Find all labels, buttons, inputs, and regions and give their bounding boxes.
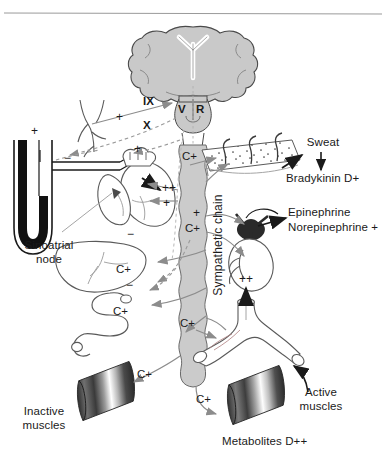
sign-liver-c-plus: C+ <box>116 263 131 275</box>
sign-manometer-plus: + <box>31 124 38 138</box>
sign-heart-plus-double: ++ <box>162 181 176 195</box>
nerve-label-ix: IX <box>143 95 154 108</box>
sign-liver-minus: − <box>127 227 134 241</box>
sinoatrial-node-label-line2: node <box>6 253 92 266</box>
sign-intestine-minus: − <box>126 278 133 292</box>
sympathetic-chain-label: Sympathetic chain <box>211 170 225 320</box>
sign-heart-minus: − <box>64 151 71 165</box>
inactive-muscle-icon <box>74 361 137 421</box>
heart-icon <box>62 148 175 232</box>
brain-icon <box>128 26 257 102</box>
sign-inactive-muscle-c-plus: C+ <box>137 368 152 380</box>
medulla-icon <box>175 86 212 150</box>
intestine-icon <box>72 293 132 356</box>
sympathetic-chain-icon <box>179 145 207 387</box>
sweat-label: Sweat <box>300 136 346 149</box>
sign-heart-plus-lower: + <box>163 196 170 210</box>
inactive-muscles-label-line2: muscles <box>8 419 80 432</box>
norepinephrine-label: Norepinephrine + <box>288 221 378 234</box>
sign-skin-c-plus: C+ <box>182 150 197 162</box>
nerve-label-r: R <box>196 103 204 116</box>
sign-heart-plus-upper: + <box>134 142 141 156</box>
sign-adrenal-c-plus: C+ <box>185 222 200 234</box>
sign-vessel-plus-double: ++ <box>239 272 253 286</box>
metabolites-label: Metabolites D++ <box>222 435 307 448</box>
epinephrine-label: Epinephrine <box>288 206 350 219</box>
nerve-label-v: V <box>178 103 186 116</box>
adrenal-kidney-icon <box>229 209 286 291</box>
sign-adrenal-plus: + <box>193 206 200 220</box>
carotid-baroreceptor-icon <box>78 100 106 157</box>
nerve-label-x: X <box>143 119 151 132</box>
bradykinin-label: Bradykinin D+ <box>286 172 359 185</box>
sign-carotid-plus: + <box>116 110 123 124</box>
active-muscles-label-line1: Active <box>288 386 354 399</box>
skin-sweat-gland-icon <box>202 133 302 173</box>
active-muscles-label-line2: muscles <box>288 400 354 413</box>
active-muscle-icon <box>224 365 287 425</box>
sinoatrial-node-label-line1: Sinoatrial <box>6 239 92 252</box>
sign-active-muscle-c-plus: C+ <box>196 393 211 405</box>
top-rule <box>4 13 382 14</box>
sign-intestine-c-plus: C+ <box>113 305 128 317</box>
inactive-muscles-label-line1: Inactive <box>8 405 80 418</box>
sign-vessel-c-plus: C+ <box>180 317 195 329</box>
physiology-diagram: + + IX X V R − + ++ + C+ Sweat Bradykini… <box>0 0 386 460</box>
